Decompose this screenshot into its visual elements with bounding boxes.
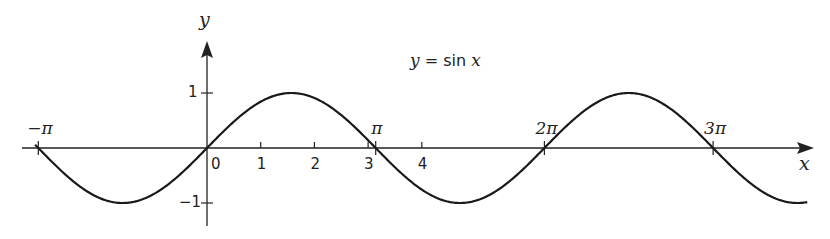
title-fn: sin	[443, 51, 471, 70]
title-arg: x	[471, 50, 481, 70]
y-tick-label: −1	[179, 195, 201, 210]
x-tick-label-0: 0	[211, 157, 221, 172]
title-eq: =	[420, 51, 444, 70]
x-tick-label-pi: 3π	[704, 120, 726, 137]
y-axis-label: y	[199, 10, 210, 29]
x-tick-label-4: 4	[418, 157, 428, 172]
chart-title: y = sin x	[410, 52, 481, 69]
x-tick-label-pi: 2π	[535, 120, 557, 137]
x-tick-label-1: 1	[257, 157, 267, 172]
x-axis-label: x	[799, 154, 810, 173]
x-tick-label-pi: π	[371, 120, 382, 137]
x-tick-label-pi: −π	[27, 120, 52, 137]
title-lhs: y	[410, 50, 420, 70]
y-tick-label: 1	[188, 85, 198, 100]
x-tick-label-3: 3	[364, 157, 374, 172]
x-tick-label-2: 2	[310, 157, 320, 172]
